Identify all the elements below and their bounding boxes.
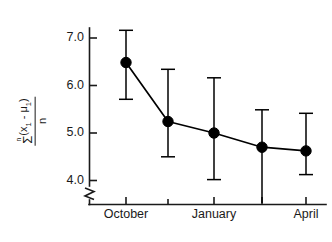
plot-area: 7.0 6.0 5.0 4.0 October January April — [0, 0, 332, 242]
x-tick-label-april: April — [293, 207, 318, 221]
error-bars — [119, 30, 313, 203]
x-tick-label-october: October — [104, 207, 148, 221]
y-axis-ticks — [90, 38, 98, 181]
y-tick-label-3: 6.0 — [67, 78, 84, 92]
chart-figure: n Σ (x1 - μ1) n 7.0 6.0 — [0, 0, 332, 242]
error-bar-4 — [255, 110, 269, 203]
y-tick-label-2: 5.0 — [67, 125, 84, 139]
x-axis-ticks — [126, 197, 306, 205]
y-axis-tick-labels: 7.0 6.0 5.0 4.0 — [67, 30, 84, 187]
data-point-4 — [257, 142, 267, 152]
y-tick-label-1: 4.0 — [67, 173, 84, 187]
data-point-5 — [301, 146, 311, 156]
data-point-3 — [209, 128, 219, 138]
error-bar-2 — [161, 69, 175, 157]
y-tick-label-4: 7.0 — [67, 30, 84, 44]
axis-break-icon — [85, 188, 94, 200]
x-axis-tick-labels: October January April — [104, 207, 319, 221]
data-markers — [121, 57, 311, 156]
data-point-1 — [121, 57, 131, 67]
data-point-2 — [163, 116, 173, 126]
error-bar-5 — [299, 113, 313, 174]
x-tick-label-january: January — [192, 207, 237, 221]
